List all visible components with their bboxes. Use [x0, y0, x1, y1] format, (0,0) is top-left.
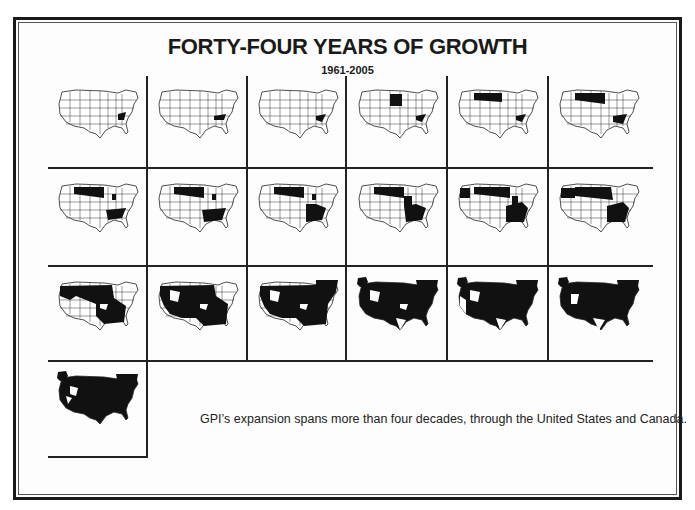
us-map-icon [256, 178, 342, 240]
map-cell-2 [148, 76, 248, 172]
map-cell-8 [148, 170, 248, 266]
map-cell-19 [48, 362, 148, 458]
map-cell-5 [448, 76, 548, 172]
us-map-icon [56, 370, 142, 432]
map-cell-11 [448, 170, 548, 266]
us-map-icon [557, 84, 643, 146]
us-map-icon [557, 178, 643, 240]
map-cell-3 [248, 76, 348, 172]
us-map-icon [456, 178, 542, 240]
us-map-icon [256, 84, 342, 146]
map-cell-12 [549, 170, 649, 266]
map-cell-9 [248, 170, 348, 266]
us-map-icon [156, 84, 242, 146]
page-subtitle: 1961-2005 [0, 64, 695, 76]
map-cell-15 [248, 268, 348, 364]
map-cell-17 [448, 268, 548, 364]
us-map-icon [256, 276, 342, 338]
us-map-icon [356, 178, 442, 240]
us-map-icon [156, 276, 242, 338]
map-cell-1 [48, 76, 148, 172]
us-map-icon [356, 84, 442, 146]
map-cell-16 [348, 268, 448, 364]
us-map-icon [456, 276, 542, 338]
caption-text: GPI’s expansion spans more than four dec… [200, 412, 687, 426]
us-map-icon [56, 276, 142, 338]
us-map-icon [56, 84, 142, 146]
map-cell-18 [549, 268, 649, 364]
us-map-icon [356, 276, 442, 338]
map-cell-13 [48, 268, 148, 364]
map-cell-10 [348, 170, 448, 266]
map-cell-7 [48, 170, 148, 266]
map-cell-14 [148, 268, 248, 364]
us-map-icon [56, 178, 142, 240]
map-cell-4 [348, 76, 448, 172]
us-map-icon [456, 84, 542, 146]
us-map-icon [156, 178, 242, 240]
us-map-icon [557, 276, 643, 338]
map-cell-6 [549, 76, 649, 172]
page-title: FORTY-FOUR YEARS OF GROWTH [0, 34, 695, 60]
